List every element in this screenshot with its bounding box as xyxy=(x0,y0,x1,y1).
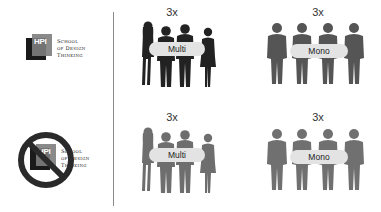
logo-line-1: School xyxy=(57,38,86,45)
vertical-divider xyxy=(113,12,114,206)
label-pill-multi: Multi xyxy=(149,42,205,56)
label-pill-mono: Mono xyxy=(290,150,348,164)
multiplier-label: 3x xyxy=(157,6,187,18)
multiplier-label: 3x xyxy=(303,6,333,18)
multiplier-label: 3x xyxy=(157,111,187,123)
logo-line-2: of Design xyxy=(57,45,86,52)
logo-badge-text: HPI xyxy=(34,37,46,46)
multiplier-label: 3x xyxy=(303,111,333,123)
label-pill-multi: Multi xyxy=(149,148,205,162)
logo-wordmark: School of Design Thinking xyxy=(57,38,86,59)
logo-line-3: Thinking xyxy=(57,52,86,59)
hpi-logo: HPI School of Design Thinking xyxy=(26,34,96,64)
label-pill-mono: Mono xyxy=(290,44,348,58)
forbidden-icon xyxy=(17,131,75,189)
